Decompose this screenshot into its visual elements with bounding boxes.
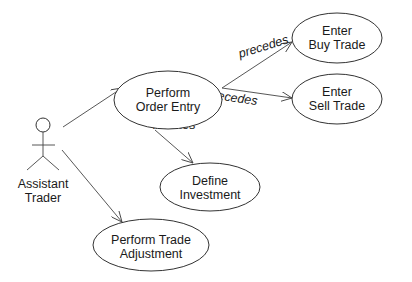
- invokes-arrow[interactable]: [155, 130, 193, 163]
- use-case-label-line1: Perform: [146, 86, 190, 100]
- use-case-label-line1: Define: [192, 174, 228, 188]
- use-case-enter-buy-trade[interactable]: Enter Buy Trade: [292, 13, 382, 63]
- actor-head: [36, 118, 50, 132]
- association-actor-order-entry[interactable]: [63, 88, 122, 127]
- use-case-perform-order-entry[interactable]: Perform Order Entry: [114, 71, 222, 129]
- actor-label-line2: Trader: [25, 191, 61, 205]
- precedes-buy-label: precedes: [236, 32, 290, 61]
- actor-assistant-trader[interactable]: Assistant Trader: [18, 118, 69, 205]
- use-case-label-line2: Adjustment: [120, 247, 183, 261]
- actor-label-line1: Assistant: [18, 177, 69, 191]
- use-case-label-line2: Order Entry: [136, 100, 201, 114]
- use-case-define-investment[interactable]: Define Investment: [160, 163, 260, 211]
- actor-right-leg: [43, 156, 59, 170]
- use-case-label-line2: Buy Trade: [309, 38, 366, 52]
- use-case-label-line2: Investment: [179, 188, 241, 202]
- actor-left-leg: [27, 156, 43, 170]
- use-case-label-line1: Enter: [322, 85, 352, 99]
- use-case-perform-trade-adjustment[interactable]: Perform Trade Adjustment: [93, 219, 209, 271]
- use-case-diagram: Assistant Trader precedes precedes invok…: [0, 0, 412, 282]
- use-case-label-line2: Sell Trade: [309, 99, 365, 113]
- use-case-enter-sell-trade[interactable]: Enter Sell Trade: [292, 74, 382, 124]
- use-case-label-line1: Perform Trade: [111, 233, 191, 247]
- association-actor-trade-adjustment[interactable]: [62, 150, 122, 222]
- use-case-label-line1: Enter: [322, 24, 352, 38]
